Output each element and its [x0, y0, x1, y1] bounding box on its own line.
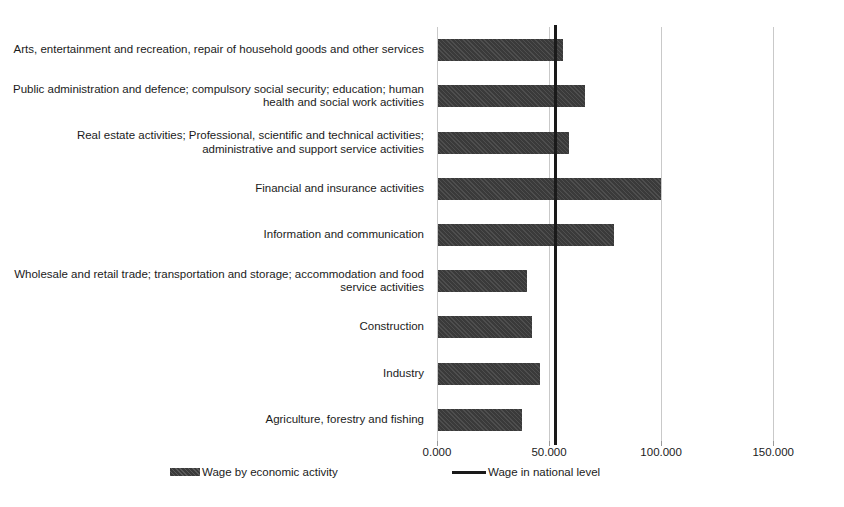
bar-swatch-icon — [170, 468, 200, 476]
x-tick-label: 100.000 — [640, 446, 682, 458]
bar[interactable] — [437, 132, 569, 154]
legend-item-wage-by-economic-activity: Wage by economic activity — [170, 466, 338, 478]
x-tick-label: 0.000 — [423, 446, 452, 458]
legend-item-wage-in-national-level: Wage in national level — [452, 466, 600, 478]
national-wage-reference-line — [554, 25, 557, 445]
category-label: Agriculture, forestry and fishing — [12, 413, 424, 427]
bar[interactable] — [437, 178, 661, 200]
category-label: Arts, entertainment and recreation, repa… — [12, 43, 424, 57]
category-label: Financial and insurance activities — [12, 182, 424, 196]
bar-row — [437, 27, 790, 73]
bar[interactable] — [437, 270, 527, 292]
category-label: Information and communication — [12, 228, 424, 242]
bar-row — [437, 304, 790, 350]
bar[interactable] — [437, 85, 585, 107]
x-tick-label: 50.000 — [531, 446, 566, 458]
category-axis-labels: Arts, entertainment and recreation, repa… — [8, 27, 432, 443]
legend-line-label: Wage in national level — [488, 466, 600, 478]
bar[interactable] — [437, 409, 522, 431]
y-axis-line — [437, 27, 438, 443]
bar-row — [437, 119, 790, 165]
wage-by-economic-activity-chart: Arts, entertainment and recreation, repa… — [0, 0, 844, 507]
chart-legend: Wage by economic activity Wage in nation… — [0, 466, 844, 486]
category-label: Real estate activities; Professional, sc… — [12, 129, 424, 156]
chart-screenshot: Arts, entertainment and recreation, repa… — [0, 0, 844, 507]
category-label: Wholesale and retail trade; transportati… — [12, 268, 424, 295]
bar-row — [437, 397, 790, 443]
bar[interactable] — [437, 363, 540, 385]
category-label: Public administration and defence; compu… — [12, 83, 424, 110]
x-tick-label: 150.000 — [752, 446, 794, 458]
legend-bar-label: Wage by economic activity — [202, 466, 338, 478]
bar[interactable] — [437, 224, 614, 246]
category-label: Industry — [12, 367, 424, 381]
bar-row — [437, 166, 790, 212]
bar[interactable] — [437, 316, 532, 338]
bar-row — [437, 351, 790, 397]
plot-area — [437, 27, 790, 443]
bar-row — [437, 212, 790, 258]
bar[interactable] — [437, 39, 563, 61]
bar-row — [437, 73, 790, 119]
bar-row — [437, 258, 790, 304]
x-axis-tick-labels: 0.00050.000100.000150.000 — [0, 446, 844, 464]
line-swatch-icon — [452, 471, 486, 474]
category-label: Construction — [12, 320, 424, 334]
